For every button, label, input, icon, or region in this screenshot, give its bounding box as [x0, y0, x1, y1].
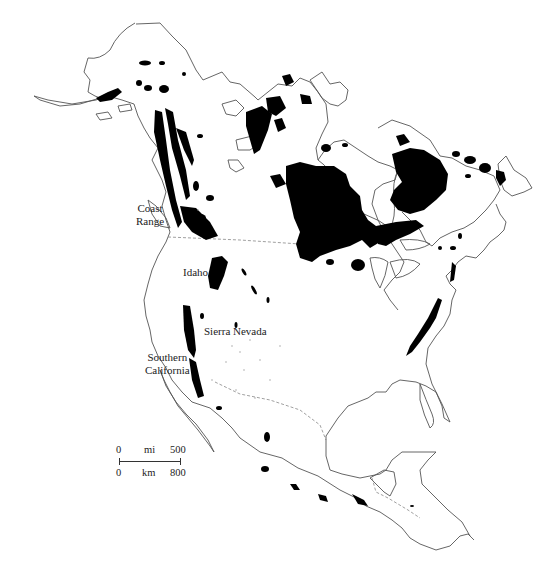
north-america-map	[0, 0, 556, 565]
scale-km-end: 800	[170, 467, 186, 478]
label-coast-range-line1: Coast	[136, 202, 164, 215]
label-southern-california: Southern California	[145, 351, 190, 377]
label-southern-california-line1: Southern	[145, 351, 190, 364]
label-coast-range-line2: Range	[136, 215, 164, 228]
scale-bar: 0 mi 500 0 km 800	[113, 444, 193, 484]
scale-km-start: 0	[116, 467, 121, 478]
scale-mi-unit: mi	[144, 444, 155, 455]
label-idaho: Idaho	[183, 266, 208, 279]
scale-mi-start: 0	[116, 444, 121, 455]
label-southern-california-line2: California	[145, 364, 190, 377]
vegetation-patches	[96, 61, 506, 508]
label-sierra-nevada: Sierra Nevada	[204, 325, 267, 338]
scale-km-unit: km	[142, 467, 155, 478]
label-coast-range: Coast Range	[136, 202, 164, 228]
border-lines	[168, 237, 420, 518]
scale-bar-tick-right	[180, 458, 181, 465]
scale-mi-end: 500	[170, 444, 186, 455]
scale-bar-tick-left	[119, 458, 120, 465]
scale-bar-line	[119, 461, 181, 462]
